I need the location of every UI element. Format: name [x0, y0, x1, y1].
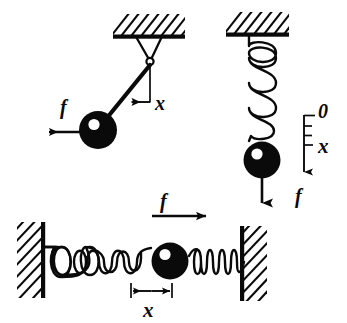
mass-highlight — [251, 148, 262, 159]
left-wall — [10, 208, 45, 308]
ceiling-bar — [113, 35, 185, 39]
ceiling-bar — [226, 33, 289, 37]
horizontal-displacement-dimension — [131, 283, 172, 298]
pendulum-hanger-bracket — [137, 39, 161, 59]
panel-pendulum: x f — [49, 12, 200, 149]
vertical-spring-coil — [249, 37, 276, 142]
vertical-spring-force-label: f — [295, 185, 304, 208]
pendulum-bob-circle — [79, 111, 117, 149]
left-wall-bar — [41, 222, 45, 298]
mass-circle — [152, 243, 189, 280]
horizontal-spring-displacement-label: x — [142, 298, 154, 322]
vertical-spring-ceiling-support — [221, 10, 303, 38]
panel-horizontal-spring: f — [10, 190, 272, 322]
vertical-spring-displacement-label: x — [317, 134, 329, 158]
right-wall-bar — [240, 226, 244, 301]
right-wall — [236, 212, 272, 306]
horizontal-spring-force-label: f — [160, 190, 169, 213]
horizontal-spring-mass — [152, 243, 189, 280]
pendulum-bob-highlight — [88, 119, 99, 130]
pendulum-force-label: f — [60, 96, 69, 119]
horizontal-spring-force-indicator: f — [152, 190, 206, 216]
right-spring-coil — [189, 249, 244, 274]
panel-vertical-spring: f 0 x — [221, 10, 329, 208]
physics-figure: x f — [0, 0, 347, 323]
vertical-spring-scale — [304, 115, 315, 172]
pendulum-displacement-label: x — [154, 92, 165, 114]
wall-hatching-icon — [10, 208, 44, 308]
mass-highlight — [159, 249, 170, 260]
vertical-spring-origin-label: 0 — [318, 100, 328, 122]
pendulum-ceiling-support — [108, 12, 200, 40]
pendulum-bob — [79, 111, 117, 149]
oscillator-diagram-svg: x f — [0, 0, 347, 323]
